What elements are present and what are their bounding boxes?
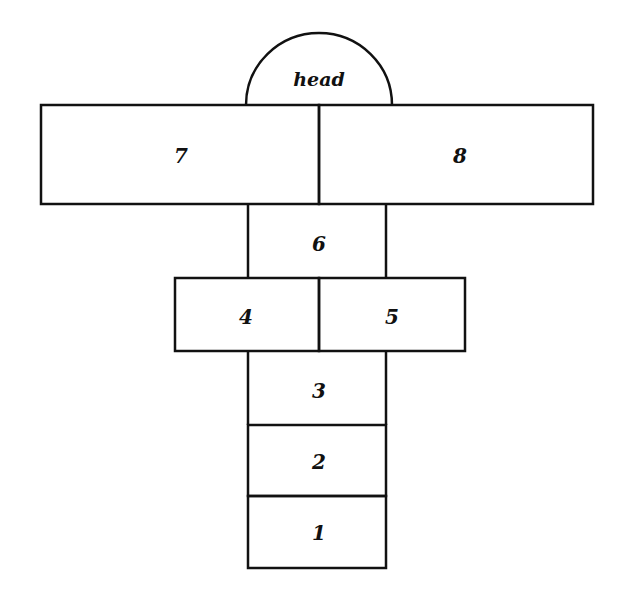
square-4: 4 [175,278,319,351]
square-5: 5 [319,278,465,351]
square-1-label: 1 [312,521,326,545]
square-6-label: 6 [312,232,326,256]
hopscotch-diagram: head 7 8 6 4 5 3 2 1 [0,0,620,599]
square-7-label: 7 [174,144,188,168]
square-3-label: 3 [312,379,326,403]
square-7: 7 [41,105,319,204]
head-zone: head [246,33,392,105]
square-8: 8 [319,105,593,204]
square-2-label: 2 [311,450,326,474]
square-3: 3 [248,351,386,425]
head-label: head [293,68,345,90]
square-2: 2 [248,425,386,496]
square-1: 1 [248,496,386,568]
square-5-label: 5 [385,305,399,329]
square-6: 6 [248,204,386,278]
square-4-label: 4 [239,305,253,329]
square-8-label: 8 [452,144,467,168]
